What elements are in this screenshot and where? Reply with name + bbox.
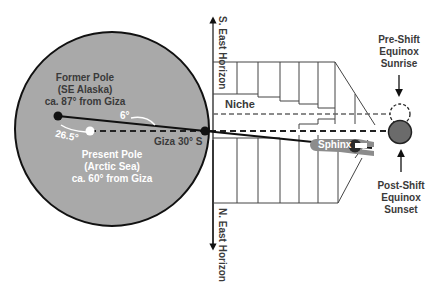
pre-shift-line3: Sunrise (369, 58, 429, 70)
sun-positions (389, 104, 412, 144)
ne-horizon-line2: Horizon (217, 245, 228, 282)
ne-horizon-label: N. East Horizon (217, 208, 228, 282)
niche-label: Niche (225, 98, 255, 110)
niche-upper-structure (213, 62, 375, 129)
angle-6-label: 6° (120, 110, 130, 122)
pre-shift-line1: Pre-Shift (369, 34, 429, 46)
former-pole-line3: ca. 87° from Giza (40, 96, 130, 108)
post-shift-line1: Post-Shift (369, 180, 433, 192)
se-horizon-line1: S. East (217, 16, 228, 49)
former-pole-dot (54, 112, 63, 121)
giza-label: Giza 30° S (154, 136, 202, 148)
present-pole-label: Present Pole (Arctic Sea) ca. 60° from G… (67, 149, 157, 185)
present-pole-line2: (Arctic Sea) (67, 161, 157, 173)
ne-horizon-line1: N. East (217, 208, 228, 242)
post-shift-line2: Equinox (369, 192, 433, 204)
pre-shift-line2: Equinox (369, 46, 429, 58)
present-pole-line1: Present Pole (67, 149, 157, 161)
pre-shift-label: Pre-Shift Equinox Sunrise (369, 34, 429, 70)
post-shift-sun (389, 121, 412, 144)
former-pole-label: Former Pole (SE Alaska) ca. 87° from Giz… (40, 72, 130, 108)
sphinx-label: Sphinx (318, 139, 351, 151)
se-horizon-line2: Horizon (217, 52, 228, 89)
giza-dot (201, 127, 210, 136)
se-horizon-label: S. East Horizon (217, 16, 228, 89)
former-pole-line1: Former Pole (40, 72, 130, 84)
post-shift-label: Post-Shift Equinox Sunset (369, 180, 433, 216)
post-shift-line3: Sunset (369, 204, 433, 216)
former-pole-line2: (SE Alaska) (40, 84, 130, 96)
present-pole-dot (86, 127, 95, 136)
present-pole-line3: ca. 60° from Giza (67, 173, 157, 185)
